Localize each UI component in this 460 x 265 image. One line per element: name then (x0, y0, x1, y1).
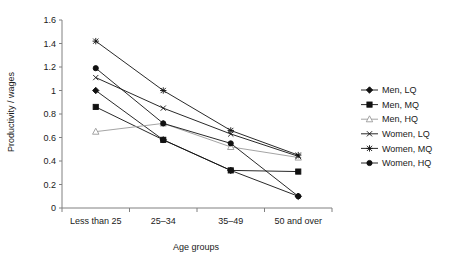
y-tick-label: 1.6 (43, 15, 56, 25)
data-point-cross-marker (93, 75, 98, 80)
y-tick-label: 0 (51, 203, 56, 213)
legend-item-women-lq[interactable]: Women, LQ (361, 129, 430, 139)
y-tick-label: 1 (51, 86, 56, 96)
y-axis: 00.20.40.60.811.21.41.6 (43, 15, 62, 213)
y-tick-label: 0.2 (43, 180, 56, 190)
series-line (96, 41, 299, 155)
series-layer (93, 38, 302, 200)
data-point-circle-marker (296, 194, 301, 199)
data-point-circle-marker (93, 66, 98, 71)
data-point-circle-marker (228, 141, 233, 146)
series-line (96, 68, 299, 196)
legend-item-men-hq[interactable]: Men, HQ (361, 114, 418, 124)
data-point-diamond-marker (93, 87, 99, 93)
data-point-diamond-marker (366, 87, 372, 93)
data-point-star-marker (93, 38, 99, 44)
data-point-circle-marker (161, 121, 166, 126)
series-line (96, 123, 299, 157)
y-tick-label: 0.4 (43, 156, 56, 166)
y-tick-label: 0.8 (43, 109, 56, 119)
x-tick-label: 35–49 (218, 216, 243, 226)
legend-label: Women, MQ (382, 144, 432, 154)
data-point-circle-marker (367, 160, 372, 165)
y-tick-label: 1.4 (43, 39, 56, 49)
line-chart: 00.20.40.60.811.21.41.6 Less than 2525–3… (0, 0, 460, 265)
x-tick-label: 50 and over (274, 216, 322, 226)
data-point-square-marker (161, 137, 166, 142)
series-men-mq (93, 104, 301, 174)
y-tick-label: 1.2 (43, 62, 56, 72)
data-point-star-marker (160, 87, 166, 93)
data-point-star-marker (366, 145, 372, 151)
data-point-square-marker (228, 168, 233, 173)
series-men-hq (93, 120, 302, 160)
series-line (96, 91, 299, 197)
legend-item-men-mq[interactable]: Men, MQ (361, 100, 419, 110)
legend-label: Women, LQ (382, 129, 430, 139)
data-point-star-marker (295, 152, 301, 158)
legend-label: Men, MQ (382, 100, 419, 110)
chart-legend: Men, LQMen, MQMen, HQWomen, LQWomen, MQW… (361, 85, 432, 168)
data-point-square-marker (93, 104, 98, 109)
y-axis-title: Productivity / wages (6, 71, 16, 152)
data-point-star-marker (228, 127, 234, 133)
series-line (96, 107, 299, 172)
series-men-lq (93, 87, 302, 199)
data-point-cross-marker (161, 106, 166, 111)
chart-figure: 00.20.40.60.811.21.41.6 Less than 2525–3… (0, 0, 460, 265)
legend-label: Women, HQ (382, 158, 431, 168)
y-tick-label: 0.6 (43, 133, 56, 143)
data-point-square-marker (296, 169, 301, 174)
x-tick-label: 25–34 (151, 216, 176, 226)
legend-item-women-hq[interactable]: Women, HQ (361, 158, 431, 168)
legend-label: Men, LQ (382, 85, 417, 95)
legend-label: Men, HQ (382, 114, 418, 124)
legend-item-women-mq[interactable]: Women, MQ (361, 144, 432, 154)
x-axis: Less than 2525–3435–4950 and over (62, 208, 332, 226)
series-women-lq (93, 75, 301, 159)
series-women-hq (93, 66, 301, 199)
x-tick-label: Less than 25 (70, 216, 122, 226)
data-point-square-marker (367, 102, 372, 107)
series-women-mq (93, 38, 302, 158)
x-axis-title: Age groups (173, 242, 220, 252)
legend-item-men-lq[interactable]: Men, LQ (361, 85, 417, 95)
